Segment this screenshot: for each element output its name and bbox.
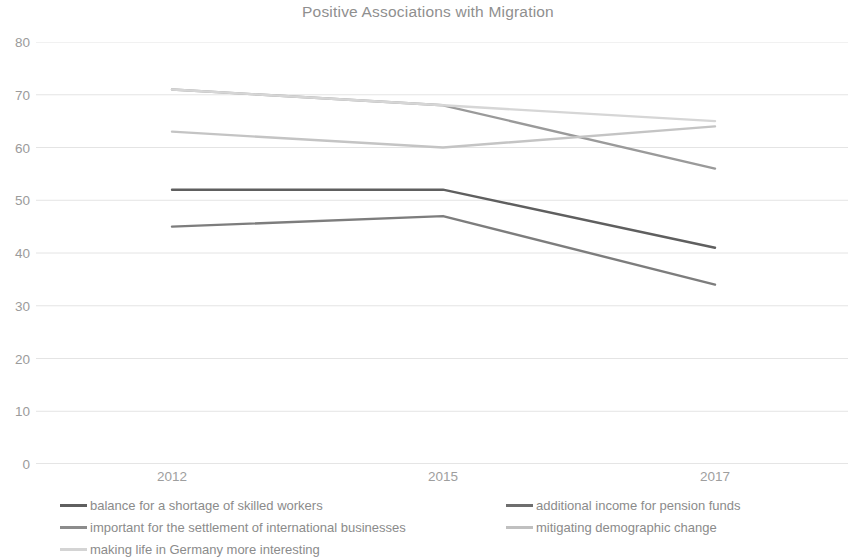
series-line-0 (172, 190, 715, 248)
legend-line-icon-3 (506, 504, 533, 507)
series-lines (172, 89, 715, 284)
legend-item-0[interactable]: balance for a shortage of skilled worker… (60, 499, 323, 512)
series-line-3 (172, 126, 715, 147)
x-tick-label-2015: 2015 (403, 470, 483, 484)
legend-label-2: making life in Germany more interesting (90, 543, 320, 556)
legend-line-icon-2 (60, 548, 87, 551)
legend-item-1[interactable]: important for the settlement of internat… (60, 521, 406, 534)
y-tick-label-10: 10 (4, 405, 30, 419)
y-tick-label-50: 50 (4, 194, 30, 208)
legend-line-icon-4 (506, 526, 533, 529)
series-line-4 (172, 89, 715, 121)
y-tick-label-40: 40 (4, 247, 30, 261)
plot-svg (36, 42, 848, 464)
x-tick-label-2012: 2012 (132, 470, 212, 484)
line-chart: Positive Associations with Migration 80 … (0, 0, 856, 558)
y-tick-label-20: 20 (4, 353, 30, 367)
y-tick-label-30: 30 (4, 300, 30, 314)
chart-title: Positive Associations with Migration (0, 3, 856, 21)
y-axis: 80 70 60 50 40 30 20 10 0 (0, 42, 30, 464)
legend-item-3[interactable]: additional income for pension funds (506, 499, 741, 512)
y-tick-label-0: 0 (4, 458, 30, 472)
legend-label-0: balance for a shortage of skilled worker… (90, 499, 323, 512)
legend-line-icon-1 (60, 526, 87, 529)
plot-area (36, 42, 848, 464)
legend-item-4[interactable]: mitigating demographic change (506, 521, 717, 534)
series-line-2 (172, 89, 715, 168)
chart-legend: balance for a shortage of skilled worker… (0, 493, 856, 558)
legend-label-1: important for the settlement of internat… (90, 521, 406, 534)
y-tick-label-80: 80 (4, 36, 30, 50)
legend-label-4: mitigating demographic change (536, 521, 717, 534)
legend-line-icon-0 (60, 504, 87, 507)
legend-label-3: additional income for pension funds (536, 499, 741, 512)
series-line-1 (172, 216, 715, 285)
y-tick-label-60: 60 (4, 142, 30, 156)
y-tick-label-70: 70 (4, 89, 30, 103)
x-tick-label-2017: 2017 (675, 470, 755, 484)
legend-item-2[interactable]: making life in Germany more interesting (60, 543, 320, 556)
